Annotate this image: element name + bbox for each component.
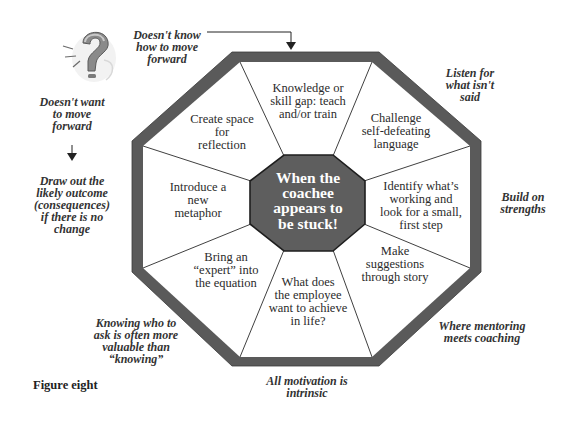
segment-line: in life? bbox=[258, 315, 358, 328]
segment-create-space: Create space for reflection bbox=[172, 113, 272, 152]
note-line: change bbox=[22, 223, 122, 235]
segment-line: and/or train bbox=[258, 108, 358, 121]
segment-bring-expert: Bring an “expert” into the equation bbox=[176, 251, 276, 290]
note-listen-for: Listen for what isn't said bbox=[430, 67, 510, 103]
arrow-doesnt-want bbox=[67, 145, 77, 161]
center-label: When the coachee appears to be stuck! bbox=[252, 170, 364, 231]
segment-line: metaphor bbox=[148, 207, 248, 220]
note-line: forward bbox=[30, 120, 114, 132]
segment-knowledge-gap: Knowledge or skill gap: teach and/or tra… bbox=[258, 82, 358, 121]
segment-challenge-language: Challenge self-defeating language bbox=[346, 112, 446, 151]
segment-line: reflection bbox=[172, 139, 272, 152]
note-draw-out: Draw out the likely outcome (consequence… bbox=[22, 175, 122, 235]
center-line: When the bbox=[252, 170, 364, 185]
note-line: meets coaching bbox=[432, 332, 532, 344]
question-mark-icon bbox=[63, 32, 116, 82]
figure-caption: Figure eight bbox=[33, 379, 98, 392]
segment-suggestions-story: Make suggestions through story bbox=[345, 245, 445, 284]
note-line: forward bbox=[128, 53, 206, 65]
segment-new-metaphor: Introduce a new metaphor bbox=[148, 181, 248, 220]
note-line: “knowing” bbox=[86, 353, 186, 365]
center-line: coachee bbox=[252, 185, 364, 200]
note-line: said bbox=[430, 91, 510, 103]
segment-line: through story bbox=[345, 271, 445, 284]
segment-line: first step bbox=[371, 219, 471, 232]
note-mentoring: Where mentoring meets coaching bbox=[432, 320, 532, 344]
segment-line: language bbox=[346, 138, 446, 151]
note-knowing-who: Knowing who to ask is often more valuabl… bbox=[86, 317, 186, 365]
note-doesnt-want: Doesn't want to move forward bbox=[30, 96, 114, 132]
note-line: strengths bbox=[488, 203, 558, 215]
center-line: be stuck! bbox=[252, 216, 364, 231]
note-motivation: All motivation is intrinsic bbox=[262, 375, 352, 399]
segment-line: the equation bbox=[176, 277, 276, 290]
center-line: appears to bbox=[252, 200, 364, 215]
note-build-on: Build on strengths bbox=[488, 191, 558, 215]
segment-identify-working: Identify what’s working and look for a s… bbox=[371, 180, 471, 233]
arrow-doesnt-know bbox=[207, 32, 296, 50]
note-line: intrinsic bbox=[262, 387, 352, 399]
note-doesnt-know: Doesn't know how to move forward bbox=[128, 29, 206, 65]
